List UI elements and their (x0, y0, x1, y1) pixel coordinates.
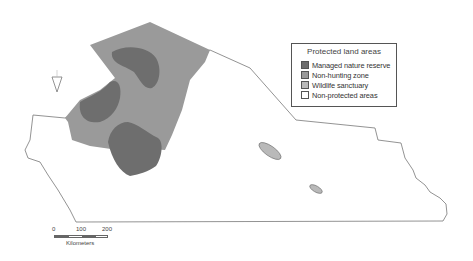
swatch-wildlife-sanctuary (301, 81, 309, 89)
legend-title: Protected land areas (292, 47, 396, 56)
protected-areas-map (0, 0, 473, 261)
swatch-non-protected-areas (301, 91, 309, 99)
legend-item-non-protected-areas: Non-protected areas (301, 90, 396, 100)
legend-item-managed-nature-reserve: Managed nature reserve (301, 60, 396, 70)
legend-label: Non-hunting zone (312, 71, 369, 80)
scale-unit: Kilometers (66, 240, 94, 246)
map-legend: Protected land areas Managed nature rese… (291, 43, 397, 107)
scale-bar-graphic (54, 235, 108, 238)
north-arrow-icon (52, 77, 62, 92)
legend-label: Non-protected areas (312, 91, 377, 100)
scale-tick-0: 0 (52, 226, 55, 232)
legend-item-non-hunting-zone: Non-hunting zone (301, 70, 396, 80)
swatch-non-hunting-zone (301, 71, 309, 79)
legend-label: Wildlife sanctuary (312, 81, 368, 90)
legend-label: Managed nature reserve (312, 61, 390, 70)
scale-tick-100: 100 (76, 226, 86, 232)
legend-item-wildlife-sanctuary: Wildlife sanctuary (301, 80, 396, 90)
swatch-managed-nature-reserve (301, 61, 309, 69)
scale-tick-200: 200 (102, 226, 112, 232)
